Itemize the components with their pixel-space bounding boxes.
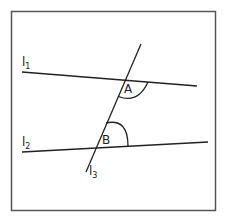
geometry-diagram: l1 l2 l3 A B	[0, 0, 226, 216]
label-l2: l2	[22, 135, 30, 151]
line-l3	[86, 44, 141, 172]
line-l2	[22, 142, 208, 152]
line-l1	[22, 72, 197, 86]
label-angle-b: B	[102, 133, 110, 147]
label-l1: l1	[22, 55, 30, 71]
frame-border	[12, 12, 216, 211]
label-l3: l3	[89, 164, 97, 180]
label-angle-a: A	[124, 82, 133, 96]
